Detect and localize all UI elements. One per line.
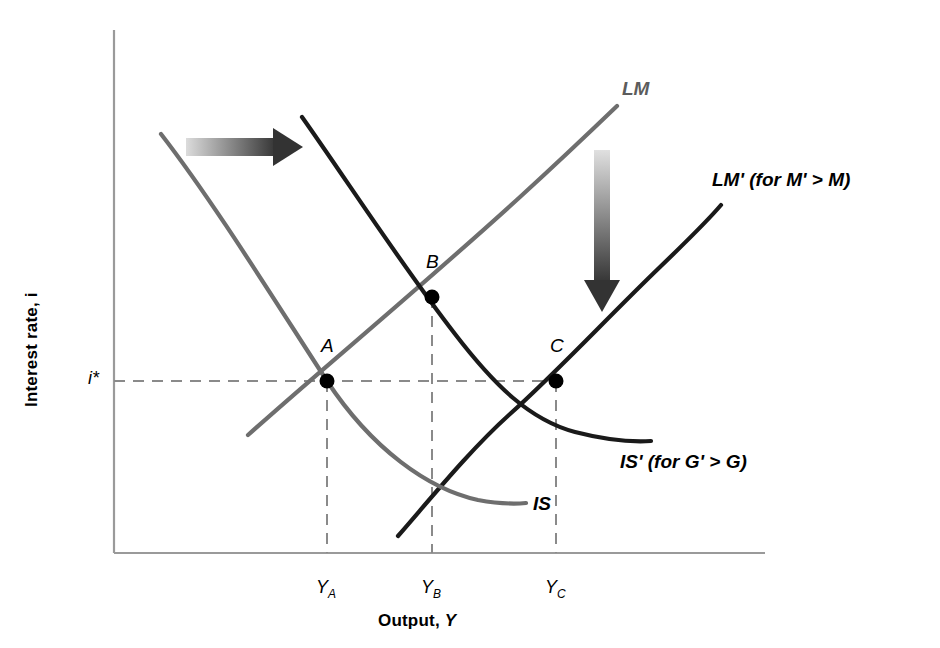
curve-label-lm-prime: LM' (for M' > M)	[712, 170, 850, 189]
is-shift-arrow	[186, 128, 303, 166]
point-label-c: C	[550, 336, 564, 355]
is-lm-figure: Interest rate, i Output, Y i* YA YB YC A…	[0, 0, 940, 648]
x-tick-yb-sub: B	[433, 587, 441, 601]
point-b	[425, 290, 440, 305]
x-axis-label-variable: Y	[445, 611, 457, 630]
x-tick-ya-sub: A	[328, 587, 336, 601]
lm-shift-arrow	[584, 150, 620, 312]
y-tick-label-istar: i*	[88, 369, 99, 387]
curve-lm-prime	[398, 205, 721, 536]
y-axis-label: Interest rate, i	[23, 292, 40, 407]
point-label-b: B	[426, 252, 439, 271]
x-tick-yb-base: Y	[421, 577, 433, 597]
curve-label-lm: LM	[622, 79, 649, 98]
curve-is	[161, 134, 526, 504]
x-tick-label-ya: YA	[316, 578, 336, 600]
curve-label-is-prime: IS' (for G' > G)	[620, 452, 747, 471]
x-tick-yc-base: Y	[545, 577, 557, 597]
x-tick-label-yb: YB	[421, 578, 441, 600]
x-tick-yc-sub: C	[557, 587, 566, 601]
point-a	[320, 374, 335, 389]
chart-canvas	[0, 0, 940, 648]
point-c	[549, 374, 564, 389]
x-tick-label-yc: YC	[545, 578, 566, 600]
x-tick-ya-base: Y	[316, 577, 328, 597]
curve-label-is: IS	[533, 494, 551, 513]
point-label-a: A	[321, 336, 334, 355]
y-axis-label-text: Interest rate, i	[22, 292, 41, 407]
x-axis-label: Output, Y	[378, 612, 456, 629]
x-axis-label-prefix: Output,	[378, 611, 445, 630]
